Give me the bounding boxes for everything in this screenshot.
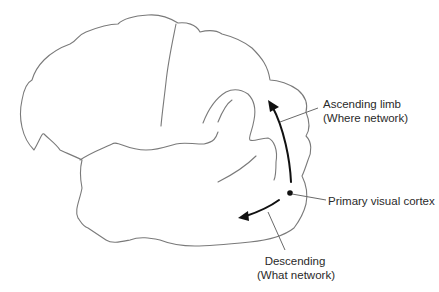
ascending-arrow [272,106,291,182]
inner-sulcus [218,100,232,122]
label-primary-visual-cortex: Primary visual cortex [328,194,435,208]
central-sulcus [161,24,176,126]
label-ascending-line1: Ascending limb [323,97,408,111]
brain-diagram [0,0,439,292]
label-descending-line2: (What network) [257,268,333,282]
label-descending-line1: Descending [257,254,333,268]
label-ascending-limb: Ascending limb (Where network) [323,97,408,125]
descending-arrowhead [238,211,249,221]
ascending-leader [280,108,318,122]
gyrus-loop [203,90,277,180]
temporal-sulcus [218,156,256,182]
label-primary-line1: Primary visual cortex [328,194,435,208]
sylvian-fissure [80,132,218,160]
descending-leader [268,212,285,250]
descending-arrow [246,200,279,216]
primary-leader [292,194,326,200]
label-ascending-line2: (Where network) [323,111,408,125]
label-descending: Descending (What network) [257,254,333,282]
primary-visual-cortex-dot [287,190,293,196]
brain-outline [21,15,311,246]
